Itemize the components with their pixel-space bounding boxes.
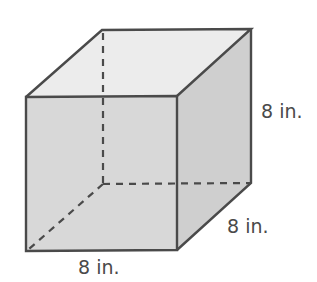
height-label: 8 in. xyxy=(261,102,303,121)
cube-drawing xyxy=(0,0,317,282)
depth-label: 8 in. xyxy=(227,217,269,236)
cube-front-face xyxy=(26,96,177,251)
width-label: 8 in. xyxy=(78,258,120,277)
cube-diagram: 8 in. 8 in. 8 in. xyxy=(0,0,317,282)
